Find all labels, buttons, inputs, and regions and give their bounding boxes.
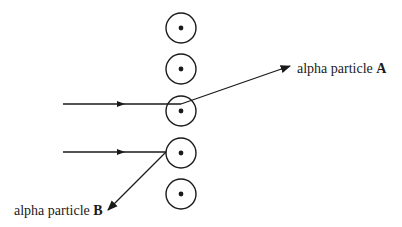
label-particle-a: alpha particle A [297, 61, 387, 76]
nucleus-dot [179, 109, 184, 114]
nucleus-dot [179, 67, 184, 72]
label-prefix: alpha particle [297, 61, 376, 76]
particle-b-path [63, 149, 166, 210]
scattering-diagram: alpha particle A alpha particle B [0, 0, 402, 227]
nucleus-dot [179, 26, 184, 31]
label-letter: B [93, 203, 102, 218]
particle-b-arrow-mid-icon [117, 149, 125, 155]
label-particle-b: alpha particle B [14, 203, 103, 218]
label-letter: A [376, 61, 387, 76]
nucleus-dot [179, 151, 184, 156]
particle-a-path [63, 66, 290, 107]
label-prefix: alpha particle [14, 203, 93, 218]
particle-b-deflected [108, 152, 166, 210]
particle-a-arrow-mid-icon [117, 101, 125, 107]
particle-a-deflected [181, 66, 290, 104]
nucleus-dot [179, 192, 184, 197]
nucleus-dots [179, 26, 184, 197]
diagram-canvas: alpha particle A alpha particle B [0, 0, 402, 227]
